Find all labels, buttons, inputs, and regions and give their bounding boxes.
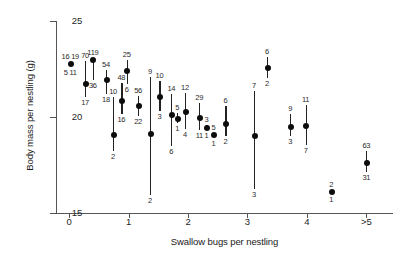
data-point-marker — [148, 131, 154, 137]
sample-size-label-lower: 11 — [196, 131, 203, 140]
data-point-marker — [364, 160, 370, 166]
sample-size-label-lower: 3 — [157, 112, 161, 121]
sample-size-label-upper: 9 — [148, 67, 152, 76]
range-bar — [85, 61, 86, 97]
sample-size-label-upper: 5 — [212, 123, 216, 132]
sample-size-label-lower: 3 — [288, 137, 292, 146]
data-point-marker — [175, 116, 181, 122]
sample-size-label-lower: 7 — [304, 146, 308, 155]
sample-size-label-upper: 6 — [265, 47, 269, 56]
sample-size-label-upper: 7 — [252, 81, 256, 90]
sample-size-label-upper: 12 — [181, 83, 189, 92]
sample-size-label-lower: 1 — [212, 139, 216, 148]
sample-size-label-upper: 119 — [87, 48, 98, 57]
sample-size-label-lower: 1 — [329, 195, 333, 204]
sample-size-label-upper: 6 — [223, 96, 227, 105]
x-tick-label: 4 — [295, 216, 319, 227]
data-point-marker — [204, 125, 210, 131]
range-bar — [171, 94, 172, 146]
range-bar — [254, 91, 255, 189]
sample-size-label-lower: 22 — [134, 117, 142, 126]
sample-size-label-upper: 54 — [102, 60, 110, 69]
sample-size-label-lower: 17 — [81, 98, 89, 107]
sample-size-label-upper: 3 — [204, 115, 208, 124]
data-point-marker — [329, 189, 335, 195]
sample-size-label-lower: 2 — [265, 79, 269, 88]
data-point-marker — [68, 61, 74, 67]
data-point-marker — [211, 132, 217, 138]
data-point-marker — [197, 115, 203, 121]
data-point-marker — [252, 133, 258, 139]
range-bar — [113, 97, 114, 151]
sample-size-label-upper: 29 — [195, 93, 203, 102]
x-tick-label: 2 — [176, 216, 200, 227]
sample-size-label-lower: 2 — [223, 137, 227, 146]
sample-size-label-upper: 10 — [109, 87, 117, 96]
data-point-marker — [183, 109, 189, 115]
data-point-marker — [119, 98, 125, 104]
data-point-marker — [303, 123, 309, 129]
data-point-marker — [288, 124, 294, 130]
y-tick-label: 25 — [56, 15, 82, 26]
sample-size-label-lower: 31 — [362, 173, 370, 182]
data-point-marker — [90, 57, 96, 63]
sample-size-label-lower: 2 — [148, 196, 152, 205]
data-point-marker — [124, 68, 130, 74]
x-axis-line — [56, 213, 393, 214]
x-tick-label: 3 — [235, 216, 259, 227]
sample-size-label-lower: 5 11 — [64, 68, 77, 77]
data-point-marker — [265, 65, 271, 71]
sample-size-label-lower: 2 — [111, 152, 115, 161]
sample-size-label-lower: 6 — [125, 85, 129, 94]
x-tick-label: 0 — [57, 216, 81, 227]
data-point-marker — [157, 94, 163, 100]
sample-size-label-lower: 18 — [102, 95, 110, 104]
sample-size-label-lower: 6 — [169, 147, 173, 156]
data-point-marker — [83, 81, 89, 87]
x-tick-label: >5 — [354, 216, 378, 227]
sample-size-label-upper: 5 — [175, 103, 179, 112]
sample-size-label-upper: 9 — [288, 104, 292, 113]
sample-size-label-upper: 56 — [134, 86, 142, 95]
sample-size-label-upper: 48 — [118, 73, 126, 82]
y-axis-title: Body mass per nestling (g) — [24, 31, 35, 201]
data-point-marker — [169, 112, 175, 118]
data-point-marker — [223, 121, 229, 127]
sample-size-label-upper: 25 — [123, 50, 131, 59]
sample-size-label-lower: 3 — [252, 190, 256, 199]
sample-size-label-upper: 11 — [302, 95, 309, 104]
data-point-marker — [111, 132, 117, 138]
sample-size-label-lower: 1 — [204, 131, 208, 140]
y-tick-label: 20 — [56, 111, 82, 122]
sample-size-label-lower: 16 — [118, 115, 126, 124]
sample-size-label-lower: 4 — [183, 130, 187, 139]
sample-size-label-lower: 1 — [175, 124, 179, 133]
sample-size-label-upper: 14 — [167, 84, 175, 93]
x-tick-label: 1 — [117, 216, 141, 227]
sample-size-label-upper: 2 — [329, 180, 333, 189]
sample-size-label-lower: 36 — [89, 81, 97, 90]
x-axis-title: Swallow bugs per nestling — [56, 236, 393, 247]
data-point-marker — [136, 103, 142, 109]
sample-size-label-upper: 10 — [156, 71, 164, 80]
scatter-plot-figure: Body mass per nestling (g) Swallow bugs … — [0, 0, 400, 276]
data-point-marker — [104, 77, 110, 83]
sample-size-label-upper: 63 — [362, 141, 370, 150]
sample-size-label-upper: 16 19 — [62, 52, 79, 61]
